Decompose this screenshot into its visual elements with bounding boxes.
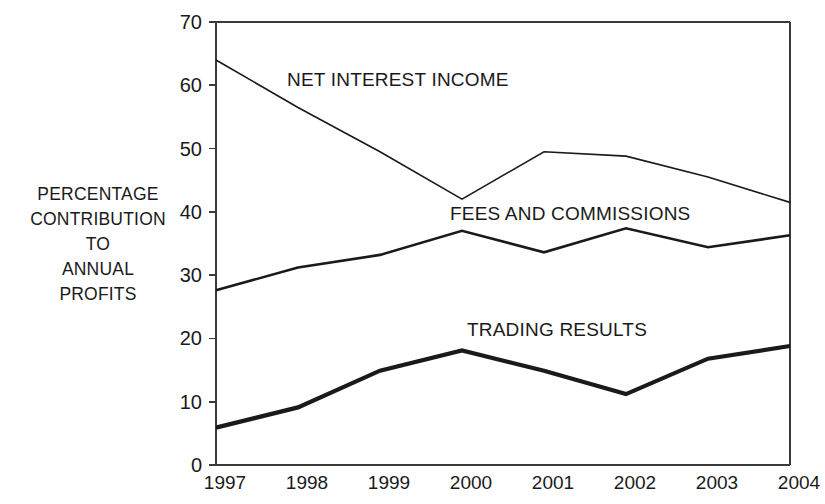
series-line-trading-results [216,346,790,428]
series-line-net-interest-income [216,60,790,202]
axis-frame [216,22,790,465]
series-lines [216,60,790,428]
series-line-fees-and-commissions [216,228,790,290]
y-axis-ticks [209,22,216,465]
